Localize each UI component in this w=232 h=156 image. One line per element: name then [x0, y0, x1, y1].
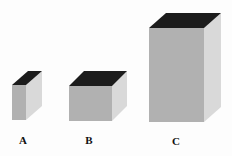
box-b-front-face	[69, 86, 112, 121]
box-a-front-face	[12, 85, 26, 120]
box-c-side-face	[204, 13, 221, 122]
box-a: A	[12, 71, 42, 146]
box-c: C	[149, 13, 221, 147]
box-comparison-diagram: A B C	[0, 0, 232, 156]
box-b: B	[69, 71, 127, 146]
box-c-front-face	[149, 28, 204, 122]
box-a-label: A	[19, 134, 27, 146]
box-b-label: B	[85, 134, 93, 146]
box-c-label: C	[172, 135, 180, 147]
diagram-svg: A B C	[0, 0, 232, 156]
